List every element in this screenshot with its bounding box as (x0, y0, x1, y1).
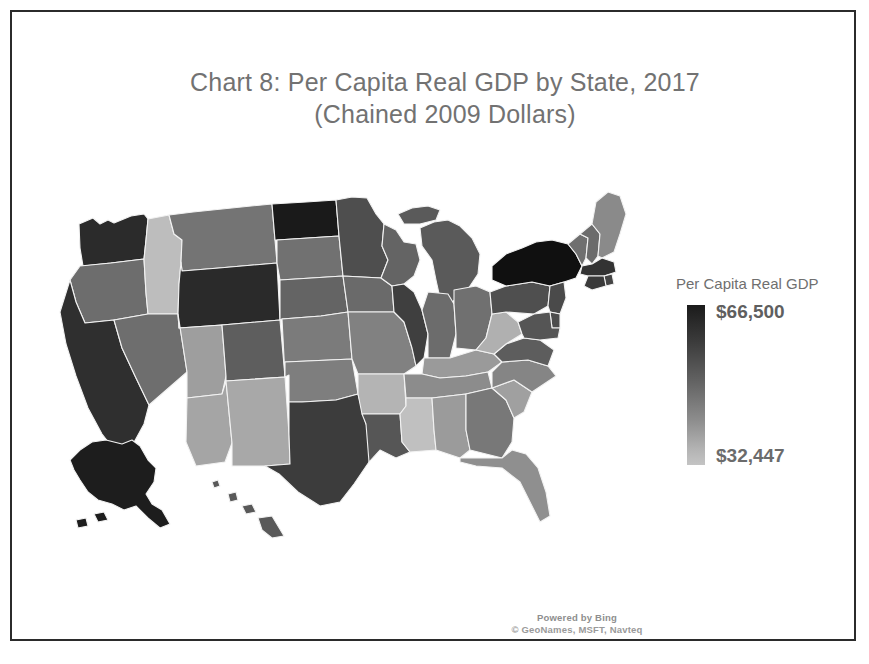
state-IN[interactable] (422, 292, 456, 358)
state-NM[interactable] (226, 377, 290, 466)
state-PA[interactable] (490, 282, 550, 314)
state-WA[interactable] (79, 214, 148, 266)
state-OR[interactable] (70, 259, 148, 323)
legend-gradient-bar (687, 305, 705, 465)
state-ND[interactable] (272, 200, 339, 240)
state-MN[interactable] (336, 197, 388, 278)
state-MA[interactable] (580, 258, 616, 276)
attribution-line1: Powered by Bing (537, 612, 617, 623)
page-frame: Chart 8: Per Capita Real GDP by State, 2… (10, 10, 856, 641)
chart-page: Chart 8: Per Capita Real GDP by State, 2… (0, 0, 869, 664)
us-choropleth-map[interactable] (36, 162, 666, 602)
map-legend: Per Capita Real GDP $66,500 $32,447 (674, 274, 864, 475)
state-MS[interactable] (400, 398, 436, 452)
state-AR[interactable] (358, 374, 406, 414)
state-HI[interactable] (212, 480, 284, 538)
chart-title: Chart 8: Per Capita Real GDP by State, 2… (23, 34, 867, 162)
state-NY[interactable] (492, 240, 582, 286)
state-SD[interactable] (277, 236, 343, 280)
legend-title: Per Capita Real GDP (676, 274, 864, 293)
state-AL[interactable] (432, 394, 470, 458)
map-attribution: Powered by Bing © GeoNames, MSFT, Navteq (412, 612, 742, 636)
state-OK[interactable] (285, 359, 358, 402)
legend-max-value: $66,500 (716, 301, 785, 323)
chart-title-line2: (Chained 2009 Dollars) (23, 98, 867, 130)
state-WY[interactable] (178, 262, 280, 328)
state-NJ[interactable] (548, 282, 566, 314)
map-svg (36, 162, 666, 602)
state-WI[interactable] (381, 224, 420, 286)
state-CO[interactable] (222, 320, 285, 381)
chart-title-line1: Chart 8: Per Capita Real GDP by State, 2… (190, 68, 700, 96)
attribution-line2: © GeoNames, MSFT, Navteq (412, 624, 742, 636)
legend-body: $66,500 $32,447 (674, 305, 864, 475)
state-CT[interactable] (584, 276, 606, 290)
state-FL[interactable] (460, 450, 550, 522)
state-AK[interactable] (70, 440, 170, 528)
legend-min-value: $32,447 (716, 445, 785, 467)
state-MT[interactable] (169, 204, 277, 271)
